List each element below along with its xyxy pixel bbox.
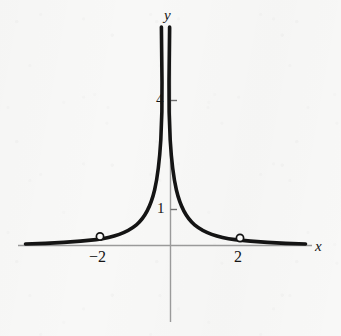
x-tick-label-2: 2 <box>234 249 242 265</box>
y-tick-label-4: 4 <box>156 92 164 107</box>
y-tick-label-1: 1 <box>157 201 165 216</box>
function-graph-figure: y x 4 1 −2 2 <box>0 0 341 336</box>
curve-right-branch <box>169 27 306 244</box>
y-axis-label: y <box>164 8 171 23</box>
plot-canvas <box>0 0 341 336</box>
open-point-minus-2 <box>96 233 103 240</box>
open-point-2 <box>236 234 243 241</box>
x-axis-label: x <box>315 239 322 254</box>
curve-left-branch <box>26 27 163 244</box>
x-tick-label-minus-2: −2 <box>89 249 106 265</box>
